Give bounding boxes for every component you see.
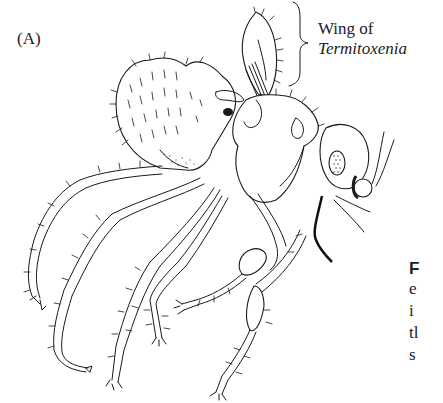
figure-caption-fragment: F e i tl s — [409, 258, 443, 366]
mouthparts — [334, 196, 370, 232]
abdomen — [110, 52, 244, 170]
antenna-base — [354, 179, 372, 197]
panel-label: (A) — [17, 29, 41, 49]
antennae — [372, 132, 394, 186]
caption-line: s — [409, 344, 443, 366]
wing — [242, 7, 283, 98]
spiracle-spot — [223, 108, 233, 116]
compound-eye — [329, 151, 345, 175]
thorax — [233, 89, 324, 202]
wing-callout-label: Wing of Termitoxenia — [318, 19, 407, 59]
caption-line: tl — [409, 322, 443, 344]
caption-line: i — [409, 300, 443, 322]
callout-brace — [289, 2, 308, 86]
termitoxenia-illustration — [0, 0, 443, 403]
head — [320, 124, 394, 232]
caption-line: e — [409, 278, 443, 300]
caption-lead-letter: F — [409, 258, 443, 278]
callout-line-1: Wing of — [318, 19, 407, 39]
callout-genus-name: Termitoxenia — [318, 39, 407, 59]
figure-panel-a: (A) Wing of Termitoxenia F e i tl s — [0, 0, 443, 403]
